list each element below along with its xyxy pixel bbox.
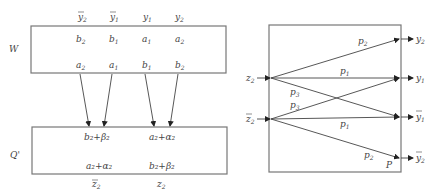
svg-text:a1: a1 [109, 60, 118, 71]
svg-text:p1: p1 [340, 66, 350, 77]
svg-text:a₂+α₂: a₂+α₂ [149, 132, 176, 142]
svg-text:y2: y2 [174, 12, 184, 23]
svg-text:y1: y1 [415, 73, 425, 84]
svg-text:b2: b2 [175, 60, 185, 71]
q-row-1: b₂+β₂ a₂+α₂ [84, 132, 176, 142]
svg-text:y1: y1 [109, 12, 119, 23]
svg-text:p2: p2 [358, 36, 368, 47]
svg-text:b2: b2 [76, 34, 86, 45]
svg-text:y2: y2 [77, 12, 87, 23]
q-prime-label: Q' [10, 150, 20, 160]
internal-edges [271, 39, 399, 158]
svg-text:b1: b1 [109, 34, 119, 45]
output-y2: y2 [401, 34, 425, 45]
svg-text:y1: y1 [142, 12, 152, 23]
svg-text:b1: b1 [142, 60, 152, 71]
svg-text:a1: a1 [142, 34, 151, 45]
edge-zbar2-ybar2 [271, 119, 399, 158]
w-row-1: b2 b1 a1 a2 [76, 34, 184, 45]
w-row-2: a2 a1 b1 b2 [76, 60, 185, 71]
svg-text:p1: p1 [340, 119, 350, 130]
svg-text:z2: z2 [245, 114, 255, 125]
svg-text:a2: a2 [175, 34, 184, 45]
q-row-2: a₂+α₂ b₂+β₂ [86, 161, 175, 171]
mapping-arrows [80, 74, 178, 126]
svg-text:b₂+β₂: b₂+β₂ [149, 161, 175, 171]
svg-text:p3: p3 [290, 100, 300, 111]
svg-text:y1: y1 [415, 112, 425, 123]
output-ybar2: y2 [401, 152, 425, 164]
svg-text:a2: a2 [76, 60, 85, 71]
w-box [31, 26, 226, 73]
diagram-canvas: W y2 y1 y1 y2 b2 b1 a1 a2 a2 a1 b1 b2 Q'… [0, 0, 428, 196]
svg-text:a₂+α₂: a₂+α₂ [86, 161, 113, 171]
svg-text:p3: p3 [290, 87, 300, 98]
edge-z2-y2 [271, 39, 399, 78]
svg-text:z2: z2 [91, 179, 101, 190]
bottom-column-footers: z2 z2 [91, 179, 166, 190]
top-column-headers: y2 y1 y1 y2 [77, 12, 184, 23]
input-zbar2: z2 [245, 114, 270, 125]
p-label: P [385, 160, 393, 170]
svg-text:y2: y2 [415, 153, 425, 164]
edge-labels: p2 p1 p3 p3 p1 p2 [290, 36, 374, 161]
svg-text:p2: p2 [364, 150, 374, 161]
input-z2: z2 [245, 73, 270, 84]
w-label: W [9, 44, 19, 54]
edge-zbar2-ybar1 [271, 117, 399, 119]
svg-text:y2: y2 [415, 34, 425, 45]
q-prime-box [32, 127, 227, 174]
svg-text:z2: z2 [245, 73, 255, 84]
svg-text:z2: z2 [156, 179, 166, 190]
output-ybar1: y1 [401, 111, 425, 123]
svg-text:b₂+β₂: b₂+β₂ [84, 132, 110, 142]
output-y1: y1 [401, 73, 425, 84]
